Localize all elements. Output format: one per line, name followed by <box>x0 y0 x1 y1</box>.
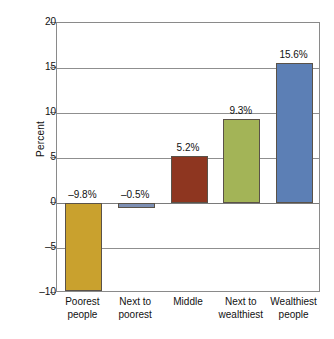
bar-3[interactable] <box>223 119 260 203</box>
y-tick-label-5: 5 <box>10 152 56 162</box>
bar-1[interactable] <box>118 203 155 208</box>
category-label-4-line-0: Wealthiest <box>262 296 326 309</box>
bar-0[interactable] <box>65 203 102 291</box>
category-label-4: Wealthiestpeople <box>262 296 326 321</box>
y-axis: 20151050–5–10 <box>0 0 56 339</box>
value-label-4: 15.6% <box>264 49 324 60</box>
bar-2[interactable] <box>171 156 208 203</box>
value-label-2: 5.2% <box>158 142 218 153</box>
value-label-0: –9.8% <box>52 189 112 200</box>
y-tick-label-10: 10 <box>10 107 56 117</box>
category-label-4-line-1: people <box>262 309 326 322</box>
y-tick-label--10: –10 <box>10 287 56 297</box>
value-label-1: –0.5% <box>105 189 165 200</box>
y-tick-label--5: –5 <box>10 242 56 252</box>
category-label-1-line-1: poorest <box>103 309 167 322</box>
x-axis-category-labels: PoorestpeopleNext topoorestMiddleNext to… <box>56 296 320 338</box>
y-tick-label-15: 15 <box>10 62 56 72</box>
plot-area <box>56 22 320 292</box>
y-tick-label-20: 20 <box>10 17 56 27</box>
bar-chart: Percent 20151050–5–10 PoorestpeopleNext … <box>0 0 334 339</box>
value-label-3: 9.3% <box>211 105 271 116</box>
bar-4[interactable] <box>276 63 313 203</box>
y-tick-label-0: 0 <box>10 197 56 207</box>
